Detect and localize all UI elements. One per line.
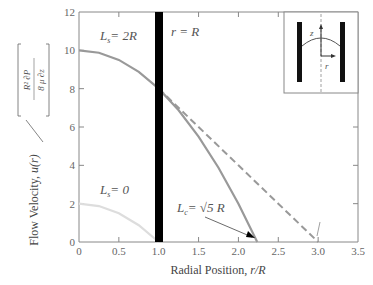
y-axis-title: Flow Velocity, u(r) R² ∂P 8 μ ∂z (18, 44, 49, 246)
y-tick-label: 6 (70, 121, 76, 133)
annotation-lc-sqrt5R: Lc= √5 R (176, 200, 225, 217)
x-tick-label: 0.5 (112, 245, 126, 257)
annotation-ls-0: Ls= 0 (99, 182, 129, 199)
flow-velocity-chart: 00.51.01.52.02.53.03.5 024681012 Ls= 2R … (0, 0, 373, 285)
annotation-r-equals-R: r = R (171, 24, 199, 39)
series-line (79, 204, 159, 242)
y-tick-label: 12 (64, 6, 75, 18)
x-tick-label: 2.5 (271, 245, 285, 257)
x-tick-label: 1.0 (152, 245, 166, 257)
inset-r-label: r (325, 61, 329, 71)
lc-arrow (205, 217, 252, 237)
x-tick-label: 1.5 (192, 245, 206, 257)
x-tick-label: 2.0 (232, 245, 246, 257)
annotation-ls-2r: Ls= 2R (99, 28, 137, 45)
svg-text:8 μ ∂z: 8 μ ∂z (36, 69, 46, 91)
x-tick-label: 0 (76, 245, 82, 257)
x-tick-label: 3.5 (351, 245, 365, 257)
y-tick-label: 0 (70, 236, 76, 248)
y-tick-label: 2 (70, 198, 76, 210)
pipe-wall-bar (155, 12, 163, 242)
series-line (159, 89, 318, 242)
x-tick-label: 3.0 (311, 245, 325, 257)
dashed-arrow (317, 222, 320, 236)
pipe-inset-diagram: z r (284, 12, 358, 93)
svg-text:R² ∂P: R² ∂P (22, 69, 32, 91)
inset-right-wall (340, 22, 345, 82)
y-tick-label: 10 (64, 44, 76, 56)
y-tick-label: 4 (70, 159, 76, 171)
inset-left-wall (297, 22, 302, 82)
svg-text:Flow Velocity, u(r): Flow Velocity, u(r) (27, 154, 41, 245)
inset-z-label: z (309, 28, 314, 38)
series-line (79, 50, 257, 242)
x-axis-title: Radial Position, r/R (170, 263, 266, 277)
y-tick-label: 8 (70, 83, 76, 95)
